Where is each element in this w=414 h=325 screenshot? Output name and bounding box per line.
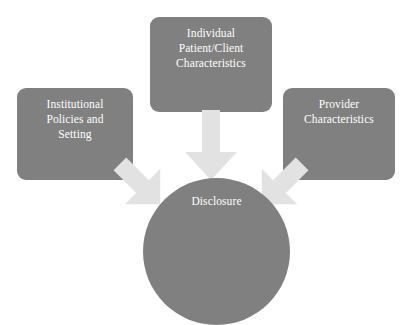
node-individual-patient-client-characteristics[interactable]: Individual Patient/Client Characteristic… <box>150 17 272 112</box>
node-disclosure-line-1: Disclosure <box>191 195 241 207</box>
node-individual-line-2: Patient/Client <box>179 42 244 54</box>
node-provider-line-1: Provider <box>319 98 359 110</box>
node-institutional-policies-and-setting[interactable]: Institutional Policies and Setting <box>17 88 133 180</box>
node-provider-characteristics[interactable]: Provider Characteristics <box>283 88 395 180</box>
node-disclosure-label: Disclosure <box>191 178 241 209</box>
node-institutional-line-2: Policies and <box>46 113 103 125</box>
node-institutional-line-3: Setting <box>58 128 91 140</box>
node-institutional-line-1: Institutional <box>47 98 104 110</box>
node-institutional-label: Institutional Policies and Setting <box>40 88 109 142</box>
node-provider-line-2: Characteristics <box>304 113 374 125</box>
node-provider-label: Provider Characteristics <box>298 88 380 127</box>
node-individual-line-3: Characteristics <box>176 57 246 69</box>
node-individual-line-1: Individual <box>187 27 235 39</box>
arrow-individual-to-disclosure <box>183 110 239 180</box>
node-disclosure[interactable]: Disclosure <box>143 178 290 325</box>
node-individual-label: Individual Patient/Client Characteristic… <box>170 17 252 71</box>
